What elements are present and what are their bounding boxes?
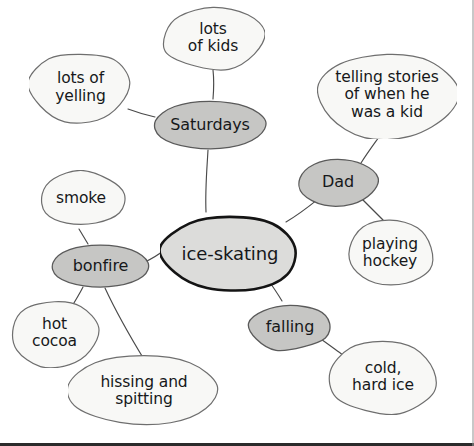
- node-label-cold-hard-ice: cold, hard ice: [348, 360, 418, 395]
- mindmap-node-saturdays[interactable]: Saturdays: [152, 99, 268, 151]
- node-label-hissing-and-spitting: hissing and spitting: [96, 374, 191, 409]
- mindmap-node-falling[interactable]: falling: [246, 302, 334, 352]
- node-layer: ice-skatingSaturdaysDadfallingbonfirelot…: [0, 0, 474, 446]
- node-label-lots-of-kids: lots of kids: [184, 21, 242, 56]
- mindmap-node-cold-hard-ice[interactable]: cold, hard ice: [328, 338, 438, 416]
- node-label-ice-skating: ice-skating: [178, 244, 283, 264]
- mindmap-node-dad[interactable]: Dad: [297, 157, 379, 207]
- node-label-dad: Dad: [318, 173, 358, 191]
- mindmap-node-lots-of-yelling[interactable]: lots of yelling: [29, 50, 132, 125]
- mindmap-node-hissing-and-spitting[interactable]: hissing and spitting: [68, 353, 220, 429]
- node-label-telling-stories: telling stories of when he was a kid: [331, 69, 443, 121]
- node-label-bonfire: bonfire: [69, 257, 133, 275]
- node-label-lots-of-yelling: lots of yelling: [51, 70, 110, 105]
- mind-map-canvas: ice-skatingSaturdaysDadfallingbonfirelot…: [0, 0, 474, 446]
- mindmap-node-smoke[interactable]: smoke: [36, 170, 126, 228]
- node-label-playing-hockey: playing hockey: [358, 236, 422, 271]
- node-label-smoke: smoke: [52, 190, 110, 207]
- mindmap-node-ice-skating[interactable]: ice-skating: [160, 213, 300, 295]
- node-label-saturdays: Saturdays: [166, 116, 254, 134]
- node-label-falling: falling: [262, 318, 318, 336]
- mindmap-node-lots-of-kids[interactable]: lots of kids: [161, 5, 265, 71]
- mindmap-node-telling-stories[interactable]: telling stories of when he was a kid: [317, 51, 457, 139]
- node-label-hot-cocoa: hot cocoa: [28, 316, 81, 351]
- mindmap-node-playing-hockey[interactable]: playing hockey: [344, 219, 436, 287]
- mindmap-node-bonfire[interactable]: bonfire: [50, 243, 151, 289]
